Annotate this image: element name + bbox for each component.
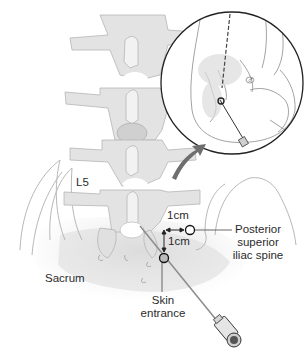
psis-marker-icon [186, 226, 195, 235]
label-sacrum: Sacrum [45, 272, 85, 285]
label-psis: Posterior superior iliac spine [232, 223, 284, 262]
label-psis-line3: iliac spine [232, 249, 284, 262]
label-skin-line2: entrance [140, 307, 186, 320]
label-l5: L5 [76, 176, 89, 189]
skin-entrance-marker-icon [160, 254, 169, 263]
label-psis-line2: superior [232, 236, 284, 249]
label-skin-line1: Skin [140, 294, 186, 307]
anatomy-diagram: L5 Sacrum 1cm 1cm Posterior superior ili… [0, 0, 308, 360]
label-skin-entrance: Skin entrance [140, 294, 186, 320]
label-distance-vertical: 1cm [168, 235, 190, 248]
inset-symbol: ♂ [247, 74, 254, 87]
magnified-inset [161, 12, 303, 154]
label-distance-horizontal: 1cm [167, 209, 189, 222]
label-psis-line1: Posterior [232, 223, 284, 236]
